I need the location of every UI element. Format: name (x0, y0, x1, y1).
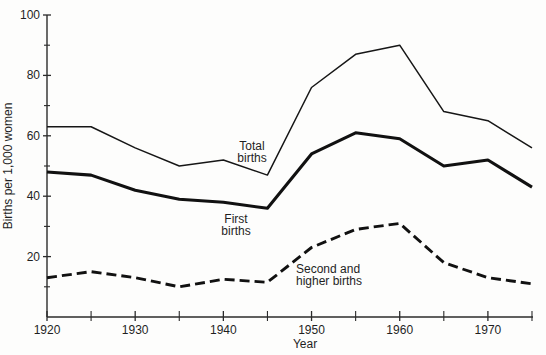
x-tick-label: 1950 (298, 323, 325, 337)
total-births-label: Totalbirths (237, 139, 266, 165)
x-tick-label: 1940 (210, 323, 237, 337)
chart-figure: 20406080100192019301940195019601970 Tota… (0, 0, 546, 355)
y-tick-label: 60 (27, 129, 41, 143)
y-tick-label: 100 (20, 8, 40, 22)
axes (47, 15, 533, 317)
series-second-and-higher-births (47, 223, 532, 286)
second-and-higher-births-label: Second andhigher births (296, 262, 362, 288)
first-births-label-line-2: births (221, 224, 250, 238)
series-first-births (47, 133, 532, 209)
first-births-label: Firstbirths (221, 212, 250, 238)
series-inline-labels: TotalbirthsFirstbirthsSecond andhigher b… (221, 139, 362, 288)
total-births-label-line-2: births (237, 151, 266, 165)
second-and-higher-births-label-line-2: higher births (296, 274, 362, 288)
x-axis-title: Year (293, 337, 317, 351)
y-tick-label: 20 (27, 250, 41, 264)
x-tick-label: 1920 (34, 323, 61, 337)
chart-series (47, 45, 532, 287)
x-tick-label: 1960 (386, 323, 413, 337)
y-tick-label: 80 (27, 68, 41, 82)
x-tick-label: 1930 (122, 323, 149, 337)
y-axis-title: Births per 1,000 women (1, 103, 15, 230)
y-tick-label: 40 (27, 189, 41, 203)
x-tick-label: 1970 (475, 323, 502, 337)
births-line-chart: 20406080100192019301940195019601970 Tota… (0, 0, 546, 355)
series-total-births (47, 45, 532, 175)
